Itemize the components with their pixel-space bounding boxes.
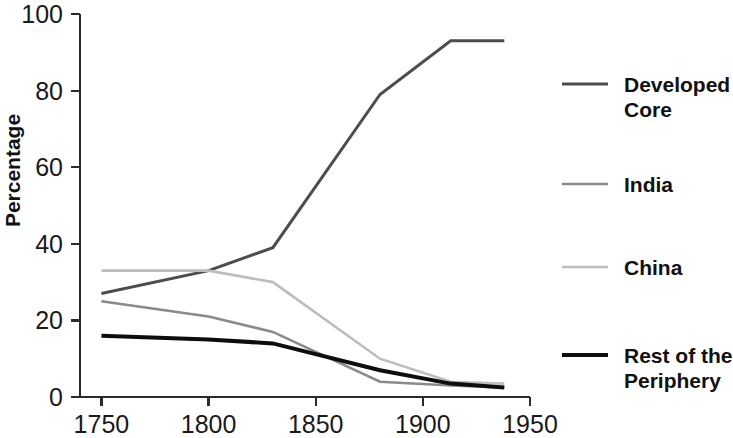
x-tick-label: 1850 [288,410,344,438]
y-tick-label: 80 [35,77,63,105]
legend-label-india: India [624,173,673,196]
y-tick-label: 0 [49,383,63,411]
y-tick-label: 20 [35,306,63,334]
legend-label-rest-of-the-periphery: Rest of the [624,344,733,367]
line-chart-figure: 02040608010017501800185019001950 Percent… [0,0,733,438]
y-tick-label: 60 [35,153,63,181]
x-tick-label: 1800 [181,410,237,438]
x-tick-label: 1900 [395,410,451,438]
y-tick-label: 40 [35,230,63,258]
x-tick-label: 1750 [74,410,130,438]
legend-label-developed-core: Developed [624,73,730,96]
x-tick-label: 1950 [502,410,558,438]
legend-label-developed-core-line2: Core [624,98,672,121]
y-axis-title: Percentage [1,114,24,227]
y-tick-label: 100 [21,0,63,28]
legend-label-china: China [624,256,683,279]
y-axis-title-group: Percentage [1,114,24,227]
legend-label-rest-of-the-periphery-line2: Periphery [624,369,721,392]
